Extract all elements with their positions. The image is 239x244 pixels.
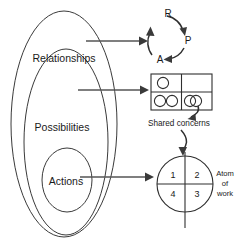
quadrant-label-1: 1 [170, 170, 175, 180]
shared-concerns-grid [151, 74, 212, 110]
atom-of-work-circle: 1 2 3 4 [157, 152, 213, 228]
cycle-node-p: P [185, 35, 192, 46]
label-shared-concerns: Shared concerns [148, 119, 210, 128]
arrow-possibilities-to-grid [78, 86, 149, 95]
cycle-node-a: A [157, 54, 164, 65]
cycle-node-r: R [164, 8, 171, 19]
quadrant-label-2: 2 [194, 170, 199, 180]
diagram-svg: Relationships Possibilities Actions [0, 0, 239, 244]
grid-cell-top-left-circle-1 [157, 77, 168, 88]
arrow-shared-concerns-to-quadrant [179, 130, 188, 156]
atom-label-line-3: work [216, 189, 233, 198]
grid-cell-bottom-left-circle-2 [166, 95, 177, 106]
cycle-arc-a-to-r [148, 33, 152, 55]
atom-of-work-label: Atom of work [216, 169, 234, 198]
cycle-arrowhead-a [164, 55, 173, 63]
atom-label-line-2: of [222, 179, 229, 188]
diagram-canvas: Relationships Possibilities Actions [0, 0, 239, 244]
cycle-rpa: R P A [146, 8, 192, 65]
label-relationships: Relationships [32, 52, 95, 64]
arrow-relationships-to-cycle [86, 37, 148, 46]
quadrant-label-4: 4 [170, 189, 175, 199]
atom-label-line-1: Atom [216, 169, 234, 178]
label-actions: Actions [49, 175, 83, 187]
ellipse-possibilities [24, 49, 108, 235]
label-possibilities: Possibilities [35, 121, 90, 133]
quadrant-label-3: 3 [194, 189, 199, 199]
cycle-arrowhead-r [146, 27, 155, 37]
grid-cell-bottom-left-circle-1 [154, 95, 165, 106]
